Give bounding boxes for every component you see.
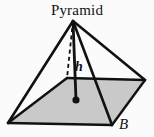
base-area-label: B bbox=[119, 117, 128, 132]
pyramid-figure: Pyramid h B bbox=[0, 0, 154, 137]
height-label: h bbox=[75, 60, 83, 74]
figure-title: Pyramid bbox=[0, 3, 154, 18]
base-center-dot bbox=[72, 96, 79, 103]
